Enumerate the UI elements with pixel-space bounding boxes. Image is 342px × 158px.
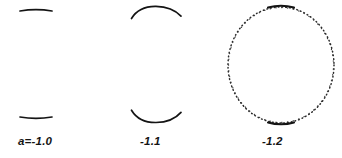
panel-1-label: a=-1.0 (18, 136, 52, 148)
panel-3-label: -1.2 (262, 136, 283, 148)
panel-1-lower-segment (20, 117, 52, 118)
figure-root: a=-1.0 -1.1 -1.2 (0, 0, 342, 158)
panel-2-lower-arc (132, 110, 182, 122)
panel-3-curves (228, 6, 334, 125)
panel-3-top-apex-arc (268, 6, 294, 8)
panel-2-label: -1.1 (140, 136, 161, 148)
panel-2-curves (132, 6, 182, 122)
panel-3-dotted-circle-speckle (229, 8, 334, 123)
panel-1-upper-segment (20, 10, 52, 11)
panel-1-curves (20, 10, 52, 119)
panel-2-upper-arc (132, 6, 182, 18)
